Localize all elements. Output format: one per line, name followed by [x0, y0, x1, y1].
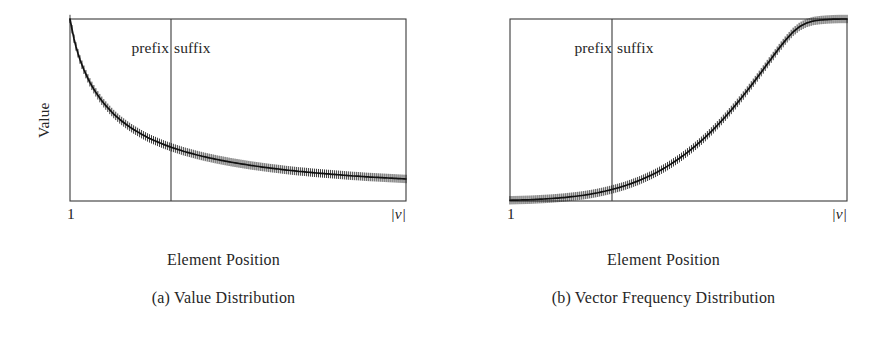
region-label-suffix-b: suffix: [617, 40, 653, 56]
plot-canvas-a: [44, 5, 434, 221]
y-axis-label-a: Value: [36, 103, 52, 138]
subfigure-vector-frequency-distribution: prefix suffix VF 1 |v| Element Position …: [442, 0, 885, 338]
x-tick-label-right-a: |v|: [366, 206, 406, 222]
x-tick-right-math-a: |v|: [391, 205, 406, 222]
x-tick-label-left-a: 1: [67, 206, 75, 222]
x-tick-label-right-b: |v|: [807, 206, 847, 222]
figure-root: prefix suffix Value 1 |v| Element Positi…: [0, 0, 885, 338]
x-tick-label-left-b: 1: [507, 206, 515, 222]
plot-canvas-b: [484, 5, 874, 221]
x-tick-right-math-b: |v|: [832, 205, 847, 222]
region-label-prefix-b: prefix: [442, 40, 614, 56]
subfigure-caption-a: (a) Value Distribution: [2, 290, 445, 306]
region-label-suffix-a: suffix: [174, 40, 210, 56]
subfigure-caption-b: (b) Vector Frequency Distribution: [442, 290, 885, 306]
region-label-prefix-a: prefix: [0, 40, 171, 56]
x-axis-title-a: Element Position: [2, 252, 445, 268]
subfigure-value-distribution: prefix suffix Value 1 |v| Element Positi…: [0, 0, 443, 338]
x-axis-title-b: Element Position: [442, 252, 885, 268]
